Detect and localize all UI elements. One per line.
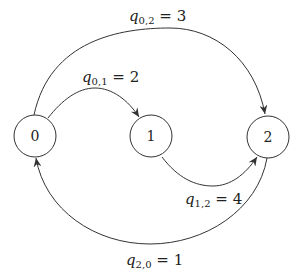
state-diagram: 0 1 2 q0,2 = 3 q0,1 = 2 q1,2 = 4 q2,0 = … (0, 0, 305, 278)
edge-1-2 (162, 157, 257, 186)
node-1-label: 1 (147, 128, 156, 144)
node-0: 0 (14, 115, 56, 157)
node-0-label: 0 (31, 128, 40, 144)
edge-label-0-1: q0,1 = 2 (82, 68, 139, 87)
edge-label-1-2: q1,2 = 4 (185, 190, 242, 209)
node-2: 2 (247, 116, 289, 158)
node-2-label: 2 (264, 129, 273, 145)
edge-label-2-0: q2,0 = 1 (126, 251, 183, 270)
edge-label-0-2: q0,2 = 3 (129, 7, 186, 26)
edge-0-1 (48, 88, 139, 118)
edge-0-2 (34, 28, 265, 115)
node-1: 1 (130, 115, 172, 157)
